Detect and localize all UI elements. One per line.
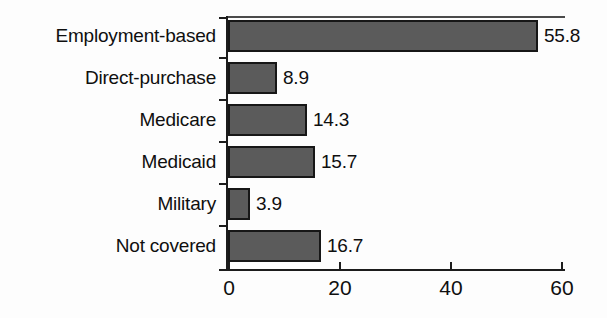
- y-tick-mark: [219, 183, 228, 185]
- bar-not-covered[interactable]: [228, 230, 321, 262]
- x-tick-mark: [561, 262, 563, 270]
- bar-employment-based[interactable]: [228, 20, 538, 52]
- value-label-direct-purchase: 8.9: [283, 62, 309, 94]
- value-label-not-covered: 16.7: [327, 230, 363, 262]
- value-label-employment-based: 55.8: [544, 20, 580, 52]
- category-label-not-covered: Not covered: [0, 230, 216, 262]
- x-tick-label-0: 0: [223, 276, 235, 300]
- x-tick-label-40: 40: [439, 276, 462, 300]
- x-tick-label-60: 60: [550, 276, 573, 300]
- y-tick-mark: [219, 99, 228, 101]
- bar-medicaid[interactable]: [228, 146, 315, 178]
- plot-top-rule: [228, 16, 565, 18]
- x-tick-mark: [450, 262, 452, 270]
- bar-medicare[interactable]: [228, 104, 307, 136]
- y-tick-mark: [219, 17, 228, 19]
- category-label-medicaid: Medicaid: [0, 146, 216, 178]
- y-tick-mark: [219, 57, 228, 59]
- category-label-direct-purchase: Direct-purchase: [0, 62, 216, 94]
- category-label-medicare: Medicare: [0, 104, 216, 136]
- y-tick-mark: [219, 141, 228, 143]
- value-label-medicaid: 15.7: [321, 146, 357, 178]
- bar-military[interactable]: [228, 188, 250, 220]
- value-label-military: 3.9: [256, 188, 282, 220]
- value-label-medicare: 14.3: [313, 104, 349, 136]
- y-tick-mark: [219, 269, 228, 271]
- x-axis-line: [228, 269, 565, 271]
- x-tick-mark: [228, 262, 230, 270]
- x-tick-mark: [339, 262, 341, 270]
- bar-chart: Employment-based 55.8 Direct-purchase 8.…: [0, 0, 607, 318]
- category-label-employment-based: Employment-based: [0, 20, 216, 52]
- x-tick-label-20: 20: [328, 276, 351, 300]
- category-label-military: Military: [0, 188, 216, 220]
- y-tick-mark: [219, 225, 228, 227]
- bar-direct-purchase[interactable]: [228, 62, 277, 94]
